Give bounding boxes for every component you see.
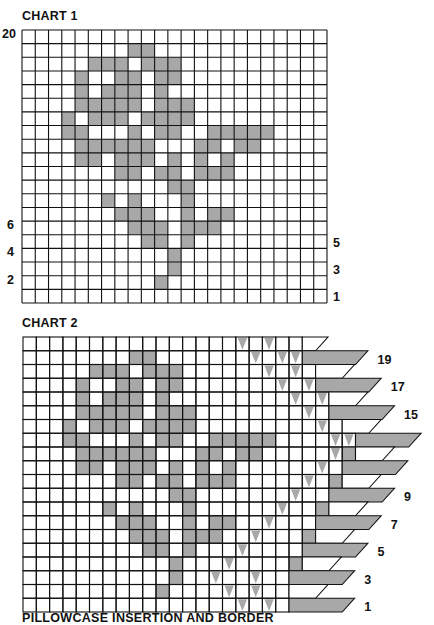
chart2-border-label: 1: [364, 600, 371, 614]
chart2-border-label: 15: [404, 408, 418, 422]
chart2-border-label: 5: [378, 545, 385, 559]
chart1-right-label: 5: [333, 236, 340, 250]
chart2-border-label: 7: [391, 518, 398, 532]
chart1-left-label: 6: [7, 218, 14, 232]
caption: PILLOWCASE INSERTION AND BORDER: [22, 611, 274, 625]
chart1-right-label: 3: [333, 263, 340, 277]
chart2-border-label: 17: [391, 380, 405, 394]
chart1-left-label: 4: [7, 245, 14, 259]
chart1-right-label: 1: [333, 290, 340, 304]
chart2-title: CHART 2: [22, 316, 78, 330]
chart1-left-label: 2: [7, 273, 14, 287]
chart2-border-label: 3: [364, 573, 371, 587]
chart2-border-label: 19: [378, 353, 392, 367]
chart1-left-label: 20: [2, 27, 16, 41]
chart2-border-label: 9: [404, 490, 411, 504]
